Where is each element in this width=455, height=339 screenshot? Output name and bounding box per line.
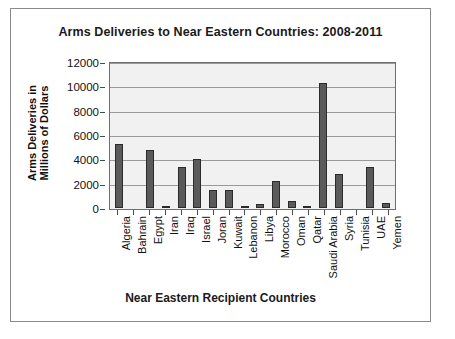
bar-slot xyxy=(158,64,174,208)
y-axis-tick-label: 6000 xyxy=(73,130,99,142)
x-axis-tick xyxy=(356,210,357,215)
x-axis-tick xyxy=(372,210,373,215)
y-axis-tick-labels: 020004000600080001000012000 xyxy=(57,62,105,210)
x-axis-tick-slot xyxy=(109,210,125,215)
bar-slot xyxy=(111,64,127,208)
bar-slot xyxy=(237,64,253,208)
bar xyxy=(382,203,390,208)
bar-slot xyxy=(300,64,316,208)
x-axis-tick-slot xyxy=(300,210,316,215)
x-axis-tick-slot xyxy=(284,210,300,215)
x-axis-label-slot: Bahrain xyxy=(125,216,141,302)
bar-slot xyxy=(331,64,347,208)
bar-slot xyxy=(205,64,221,208)
y-axis-tick-label: 8000 xyxy=(73,106,99,118)
y-axis-tick-label: 0 xyxy=(93,203,99,215)
x-axis-tick xyxy=(197,210,198,215)
x-axis-label-slot: Kuwait xyxy=(221,216,237,302)
bar-slot xyxy=(268,64,284,208)
bar xyxy=(241,206,249,208)
bar-slot xyxy=(363,64,379,208)
x-axis-label-slot: Joran xyxy=(205,216,221,302)
bar-slot xyxy=(378,64,394,208)
bar xyxy=(272,181,280,208)
bar xyxy=(366,167,374,208)
bar xyxy=(225,190,233,208)
y-axis-tick xyxy=(100,87,105,88)
x-axis-tick xyxy=(229,210,230,215)
y-axis-title-line-1: Arms Deliveries in xyxy=(26,85,38,181)
y-axis-tick xyxy=(100,209,105,210)
x-axis-tick xyxy=(181,210,182,215)
bar xyxy=(209,190,217,208)
y-axis-tick-label: 12000 xyxy=(67,57,99,69)
x-axis-label-slot: Iraq xyxy=(173,216,189,302)
x-axis-tick xyxy=(165,210,166,215)
x-axis-label-slot: Qatar xyxy=(300,216,316,302)
x-axis-tick-slot xyxy=(205,210,221,215)
bar xyxy=(288,201,296,208)
x-axis-label-slot: Lebanon xyxy=(237,216,253,302)
chart-title: Arms Deliveries to Near Eastern Countrie… xyxy=(11,25,430,39)
x-axis-tick-slot xyxy=(348,210,364,215)
x-axis-tick-slot xyxy=(125,210,141,215)
bar xyxy=(146,150,154,208)
bar xyxy=(303,206,311,208)
x-axis-tick-slot xyxy=(252,210,268,215)
x-axis-tick-slot xyxy=(364,210,380,215)
x-axis-tick-slot xyxy=(268,210,284,215)
x-axis-label-slot: Morocco xyxy=(268,216,284,302)
bar xyxy=(193,159,201,208)
x-axis-label-slot: Yemen xyxy=(380,216,396,302)
x-axis-label-slot: Libya xyxy=(252,216,268,302)
bar xyxy=(178,167,186,208)
bar-slot xyxy=(252,64,268,208)
x-axis-label-slot: Syria xyxy=(332,216,348,302)
bar-series xyxy=(111,64,394,208)
bar xyxy=(335,174,343,208)
bar-slot xyxy=(142,64,158,208)
x-axis-tick xyxy=(213,210,214,215)
x-axis-tick xyxy=(308,210,309,215)
x-axis-label-slot: Saudi Arabia xyxy=(316,216,332,302)
x-axis-tick-slot xyxy=(173,210,189,215)
x-axis-label-slot: UAE xyxy=(364,216,380,302)
x-axis-tick-slot xyxy=(157,210,173,215)
x-axis-tick-label: Yemen xyxy=(392,216,403,250)
bar xyxy=(115,144,123,208)
x-axis-tick-slot xyxy=(332,210,348,215)
x-axis-tick xyxy=(244,210,245,215)
y-axis-tick-label: 2000 xyxy=(73,179,99,191)
y-axis-title-line-2: Millions of Dollars xyxy=(38,86,50,181)
x-axis-tick xyxy=(260,210,261,215)
x-axis-ticks xyxy=(109,210,396,215)
y-axis-tick xyxy=(100,112,105,113)
x-axis-title: Near Eastern Recipient Countries xyxy=(11,291,430,305)
bar-slot xyxy=(127,64,143,208)
x-axis-tick xyxy=(324,210,325,215)
x-axis-tick xyxy=(292,210,293,215)
bar xyxy=(319,83,327,208)
x-axis-tick xyxy=(149,210,150,215)
y-axis-tick xyxy=(100,160,105,161)
x-axis-tick-slot xyxy=(380,210,396,215)
bar xyxy=(256,204,264,208)
plot-area xyxy=(109,62,396,210)
bar-slot xyxy=(174,64,190,208)
x-axis-tick-slot xyxy=(141,210,157,215)
plot-wrap: 020004000600080001000012000 AlgeriaBahra… xyxy=(109,62,396,210)
x-axis-tick-slot xyxy=(221,210,237,215)
bar-slot xyxy=(190,64,206,208)
bar-slot xyxy=(221,64,237,208)
x-axis-label-slot: Israel xyxy=(189,216,205,302)
y-axis-tick-label: 4000 xyxy=(73,154,99,166)
y-axis-tick xyxy=(100,63,105,64)
x-axis-tick-slot xyxy=(237,210,253,215)
x-axis-tick xyxy=(340,210,341,215)
bar-slot xyxy=(315,64,331,208)
y-axis-tick xyxy=(100,136,105,137)
bar-slot xyxy=(284,64,300,208)
x-axis-label-slot: Tunisia xyxy=(348,216,364,302)
x-axis-label-slot: Algeria xyxy=(109,216,125,302)
chart-frame: Arms Deliveries to Near Eastern Countrie… xyxy=(10,8,431,322)
